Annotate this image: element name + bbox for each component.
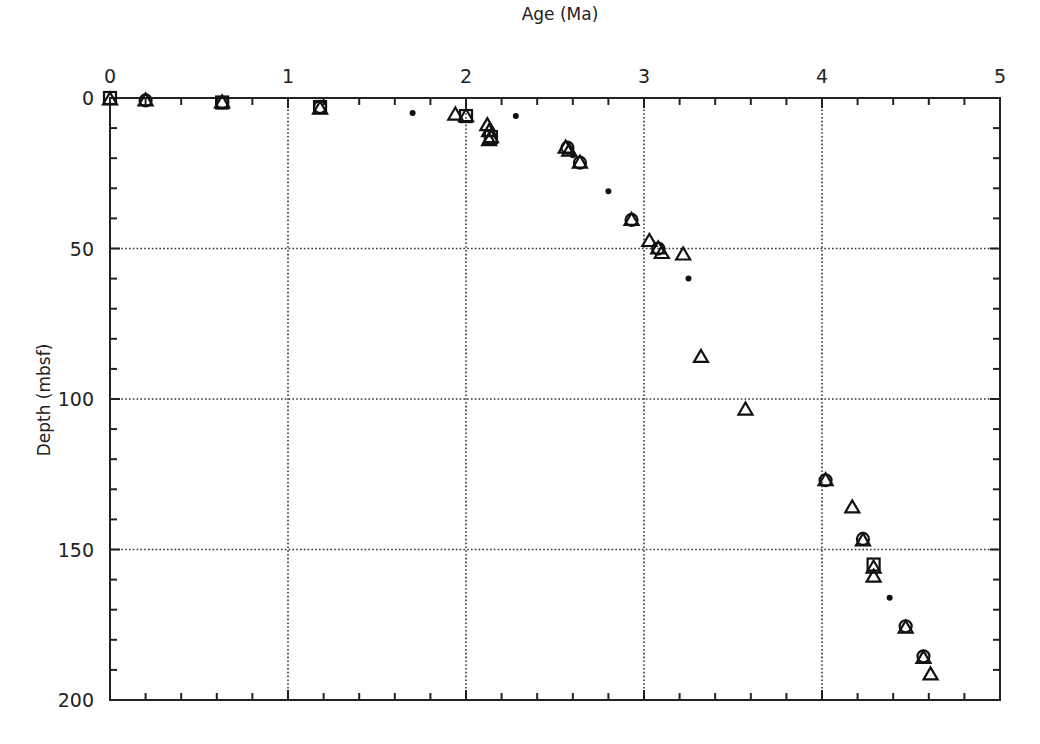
x-tick-label: 1 bbox=[282, 65, 294, 87]
age-depth-chart: 012345 050100150200 Age (Ma) Depth (mbsf… bbox=[0, 0, 1040, 744]
triangle-marker bbox=[676, 248, 690, 260]
y-tick-label: 100 bbox=[58, 388, 94, 410]
dot-marker bbox=[570, 152, 576, 158]
triangle-marker bbox=[845, 500, 859, 512]
x-tick-label: 5 bbox=[994, 65, 1006, 87]
y-tick-label: 150 bbox=[58, 539, 94, 561]
y-tick-label: 200 bbox=[58, 689, 94, 711]
triangle-marker bbox=[924, 667, 938, 679]
dot-marker bbox=[513, 113, 519, 119]
dot-marker bbox=[887, 595, 893, 601]
x-axis-title: Age (Ma) bbox=[522, 4, 599, 24]
x-tick-label: 2 bbox=[460, 65, 472, 87]
triangle-marker bbox=[694, 350, 708, 362]
y-tick-label: 0 bbox=[82, 87, 94, 109]
dot-marker bbox=[410, 110, 416, 116]
grid-lines bbox=[110, 98, 1000, 700]
x-tick-label: 4 bbox=[816, 65, 828, 87]
x-tick-label: 0 bbox=[104, 65, 116, 87]
triangle-marker bbox=[738, 403, 752, 415]
x-tick-labels: 012345 bbox=[104, 65, 1006, 87]
dot-marker bbox=[686, 276, 692, 282]
x-tick-label: 3 bbox=[638, 65, 650, 87]
y-tick-labels: 050100150200 bbox=[58, 87, 94, 711]
data-points bbox=[103, 92, 938, 679]
y-tick-label: 50 bbox=[70, 238, 94, 260]
y-axis-title: Depth (mbsf) bbox=[34, 344, 54, 457]
dot-marker bbox=[605, 188, 611, 194]
